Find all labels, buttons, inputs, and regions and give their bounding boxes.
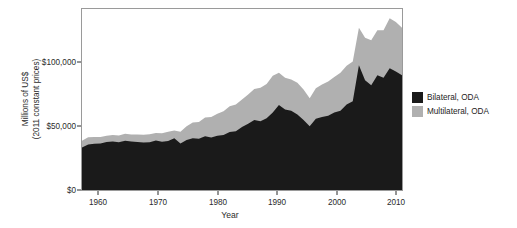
y-tick-label-100000: $100,000 [42, 58, 76, 67]
y-tick-label-50000: $50,000 [46, 122, 76, 131]
x-axis-title: Year [0, 210, 460, 220]
x-tick-label-2000: 2000 [328, 198, 346, 207]
y-axis-title-line2: (2011 constant prices) [31, 59, 42, 139]
legend-item-multilateral: Multilateral, ODA [412, 106, 512, 117]
y-axis-tick-labels: $100,000 $50,000 $0 [44, 0, 76, 228]
x-tick-label-1980: 1980 [209, 198, 227, 207]
x-tick-label-1970: 1970 [149, 198, 167, 207]
legend-swatch-multilateral [412, 106, 423, 117]
x-tick-label-1960: 1960 [89, 198, 107, 207]
plot-panel [81, 8, 403, 191]
legend-swatch-bilateral [412, 92, 423, 103]
y-axis-title: Millions of US$ (2011 constant prices) [14, 0, 48, 198]
x-tick-label-1990: 1990 [268, 198, 286, 207]
chart-legend: Bilateral, ODA Multilateral, ODA [412, 92, 512, 120]
x-tick-label-2010: 2010 [387, 198, 405, 207]
stacked-area-plot [82, 9, 402, 190]
legend-label-bilateral: Bilateral, ODA [427, 93, 479, 102]
y-axis-title-line1: Millions of US$ [20, 59, 31, 139]
legend-item-bilateral: Bilateral, ODA [412, 92, 512, 103]
y-tick-label-0: $0 [67, 186, 76, 195]
chart-figure: Millions of US$ (2011 constant prices) $… [0, 0, 517, 228]
legend-label-multilateral: Multilateral, ODA [427, 107, 489, 116]
